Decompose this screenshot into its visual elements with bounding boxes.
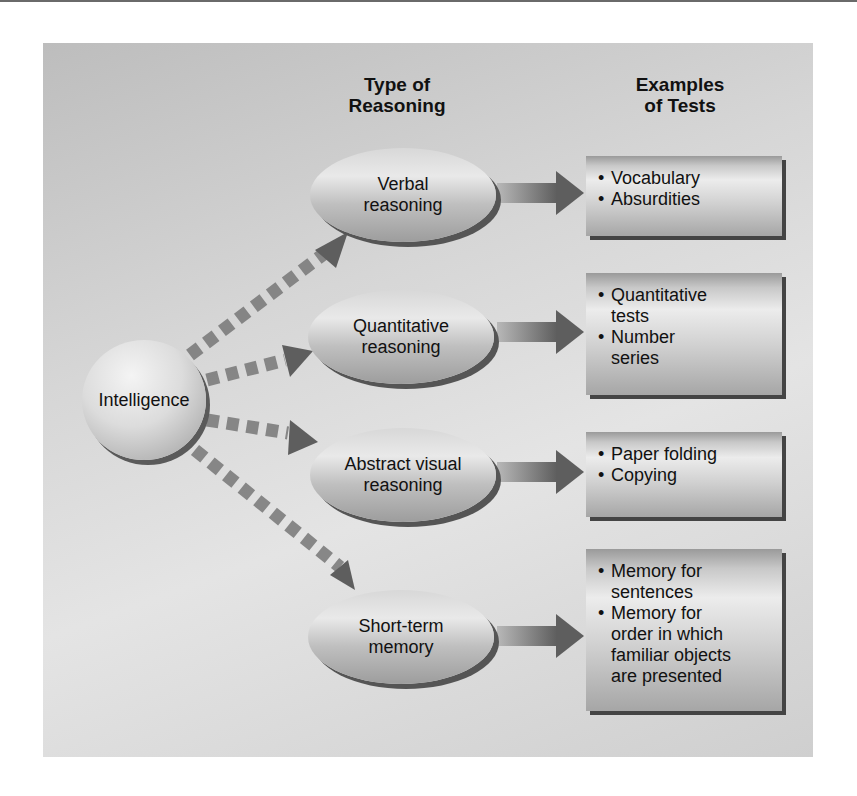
node-label: Short-term — [358, 616, 443, 637]
test-text: sentences — [611, 582, 702, 603]
bullet-icon: • — [598, 444, 611, 465]
tests-box-quantitative: •Quantitativetests •Numberseries — [586, 273, 782, 395]
test-item: •Copying — [598, 465, 772, 486]
test-text: tests — [611, 306, 707, 327]
dashed-arrow-quantitative — [207, 360, 285, 380]
arrowhead-icon — [330, 560, 355, 590]
node-abstract-visual-reasoning: Abstract visual reasoning — [310, 428, 496, 522]
test-item: •Memory fororder in whichfamiliar object… — [598, 603, 772, 687]
test-text: order in which — [611, 624, 731, 645]
node-label: Verbal — [377, 174, 428, 195]
solid-arrow-memory — [497, 614, 584, 658]
arrowhead-icon — [315, 232, 348, 268]
test-text: Copying — [611, 465, 677, 486]
test-text: Quantitative — [611, 285, 707, 306]
test-text: Memory for — [611, 561, 702, 582]
arrowhead-icon — [288, 420, 318, 455]
bullet-icon: • — [598, 327, 611, 369]
test-text: familiar objects — [611, 645, 731, 666]
test-text: Paper folding — [611, 444, 717, 465]
test-item: •Memory forsentences — [598, 561, 772, 603]
test-text: Number — [611, 327, 675, 348]
bullet-icon: • — [598, 465, 611, 486]
node-quantitative-reasoning: Quantitative reasoning — [308, 290, 494, 384]
node-label: Quantitative — [353, 316, 449, 337]
bullet-icon: • — [598, 285, 611, 327]
node-label: Abstract visual — [344, 454, 461, 475]
tests-box-abstract: •Paper folding •Copying — [586, 432, 782, 517]
arrowhead-icon — [282, 345, 313, 377]
intelligence-node: Intelligence — [82, 340, 206, 460]
test-text: Vocabulary — [611, 168, 700, 189]
solid-arrow-quantitative — [497, 310, 584, 354]
node-label: memory — [368, 637, 433, 658]
bullet-icon: • — [598, 603, 611, 687]
node-verbal-reasoning: Verbal reasoning — [310, 148, 496, 242]
test-item: •Paper folding — [598, 444, 772, 465]
tests-box-memory: •Memory forsentences •Memory fororder in… — [586, 549, 782, 711]
test-item: •Vocabulary — [598, 168, 772, 189]
node-short-term-memory: Short-term memory — [308, 590, 494, 684]
node-label: reasoning — [363, 195, 442, 216]
dashed-arrow-verbal — [190, 253, 325, 355]
dashed-arrow-abstract — [207, 420, 288, 433]
node-label: reasoning — [361, 337, 440, 358]
test-text: series — [611, 348, 675, 369]
test-text: Memory for — [611, 603, 731, 624]
test-item: •Absurdities — [598, 189, 772, 210]
test-text: are presented — [611, 666, 731, 687]
solid-arrow-abstract — [497, 450, 584, 494]
bullet-icon: • — [598, 168, 611, 189]
test-text: Absurdities — [611, 189, 700, 210]
tests-box-verbal: •Vocabulary •Absurdities — [586, 156, 782, 236]
intelligence-label: Intelligence — [98, 390, 189, 411]
node-label: reasoning — [363, 475, 442, 496]
bullet-icon: • — [598, 561, 611, 603]
test-item: •Numberseries — [598, 327, 772, 369]
solid-arrow-verbal — [497, 171, 584, 215]
bullet-icon: • — [598, 189, 611, 210]
test-item: •Quantitativetests — [598, 285, 772, 327]
